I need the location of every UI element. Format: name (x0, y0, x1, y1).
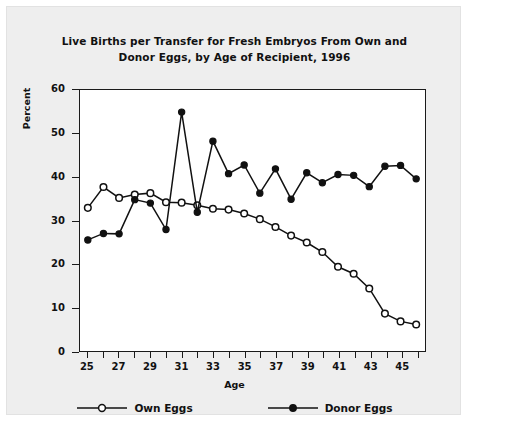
data-point (210, 138, 216, 144)
data-point (382, 310, 389, 317)
x-tick-mark (292, 352, 293, 358)
data-point (319, 180, 325, 186)
legend-item-own-eggs[interactable]: Own Eggs (76, 402, 192, 414)
x-tick-label: 33 (201, 361, 225, 372)
x-tick-label: 45 (390, 361, 414, 372)
data-point (288, 232, 295, 239)
y-tick-label: 50 (39, 127, 65, 138)
data-point (116, 195, 123, 202)
data-point (272, 166, 278, 172)
y-tick-mark (72, 352, 79, 353)
y-tick-mark (72, 177, 79, 178)
data-point (85, 205, 92, 212)
data-point (178, 199, 185, 206)
chart-title-line-2: Donor Eggs, by Age of Recipient, 1996 (7, 49, 462, 65)
x-tick-label: 27 (106, 361, 130, 372)
legend-label: Own Eggs (134, 402, 192, 414)
data-point (163, 199, 170, 206)
legend-item-donor-eggs[interactable]: Donor Eggs (267, 402, 393, 414)
data-point (272, 224, 279, 231)
x-tick-mark (260, 352, 261, 358)
data-point (241, 162, 247, 168)
data-point (366, 184, 372, 190)
chart-title: Live Births per Transfer for Fresh Embry… (7, 33, 462, 65)
y-tick-mark (72, 264, 79, 265)
y-tick-mark (72, 133, 79, 134)
series-line-donor-eggs (88, 112, 416, 240)
x-tick-mark (245, 352, 246, 358)
y-tick-label: 40 (39, 171, 65, 182)
legend-marker-open-circle (76, 402, 128, 414)
data-point (100, 184, 107, 191)
chart-legend: Own EggsDonor Eggs (7, 398, 462, 418)
legend-label: Donor Eggs (325, 402, 393, 414)
data-point (351, 172, 357, 178)
data-point (350, 270, 357, 277)
data-point (225, 206, 232, 213)
x-tick-mark (355, 352, 356, 358)
data-point (132, 197, 138, 203)
x-tick-label: 25 (75, 361, 99, 372)
x-tick-label: 29 (138, 361, 162, 372)
x-tick-label: 41 (327, 361, 351, 372)
y-tick-mark (72, 308, 79, 309)
data-point (397, 318, 404, 325)
data-point (257, 190, 263, 196)
y-tick-mark (72, 89, 79, 90)
x-tick-label: 37 (264, 361, 288, 372)
data-point (85, 237, 91, 243)
data-point (366, 285, 373, 292)
x-tick-mark (166, 352, 167, 358)
x-tick-mark (371, 352, 372, 358)
data-point (335, 264, 342, 271)
y-tick-label: 60 (39, 83, 65, 94)
data-point (335, 171, 341, 177)
x-tick-mark (339, 352, 340, 358)
x-tick-mark (197, 352, 198, 358)
y-tick-mark (72, 221, 79, 222)
chart-figure: Live Births per Transfer for Fresh Embry… (6, 6, 461, 415)
x-tick-label: 35 (233, 361, 257, 372)
data-point (100, 230, 106, 236)
x-tick-mark (276, 352, 277, 358)
x-tick-mark (418, 352, 419, 358)
x-tick-mark (229, 352, 230, 358)
data-point (413, 321, 420, 328)
x-tick-mark (150, 352, 151, 358)
data-point (225, 171, 231, 177)
data-point (382, 163, 388, 169)
y-tick-label: 10 (39, 302, 65, 313)
x-tick-label: 31 (170, 361, 194, 372)
x-tick-label: 43 (359, 361, 383, 372)
data-point (319, 249, 326, 256)
data-point (116, 231, 122, 237)
legend-marker-filled-circle (267, 402, 319, 414)
x-axis-label: Age (7, 379, 462, 390)
x-tick-mark (103, 352, 104, 358)
x-tick-mark (387, 352, 388, 358)
series-line-own-eggs (88, 187, 416, 324)
data-point (304, 170, 310, 176)
data-point (257, 216, 264, 223)
x-tick-mark (213, 352, 214, 358)
data-point (241, 210, 248, 217)
data-point (303, 239, 310, 246)
x-tick-mark (323, 352, 324, 358)
data-point (288, 196, 294, 202)
x-tick-mark (118, 352, 119, 358)
data-point (179, 109, 185, 115)
plot-area (79, 89, 426, 352)
data-point (397, 162, 403, 168)
y-axis-label: Percent (21, 64, 32, 154)
x-tick-mark (134, 352, 135, 358)
x-tick-mark (308, 352, 309, 358)
chart-svg (80, 90, 424, 350)
chart-title-line-1: Live Births per Transfer for Fresh Embry… (7, 33, 462, 49)
y-tick-label: 30 (39, 215, 65, 226)
y-tick-label: 20 (39, 258, 65, 269)
data-point (210, 205, 217, 212)
x-tick-mark (182, 352, 183, 358)
data-point (147, 200, 153, 206)
data-point (413, 176, 419, 182)
data-point (163, 226, 169, 232)
